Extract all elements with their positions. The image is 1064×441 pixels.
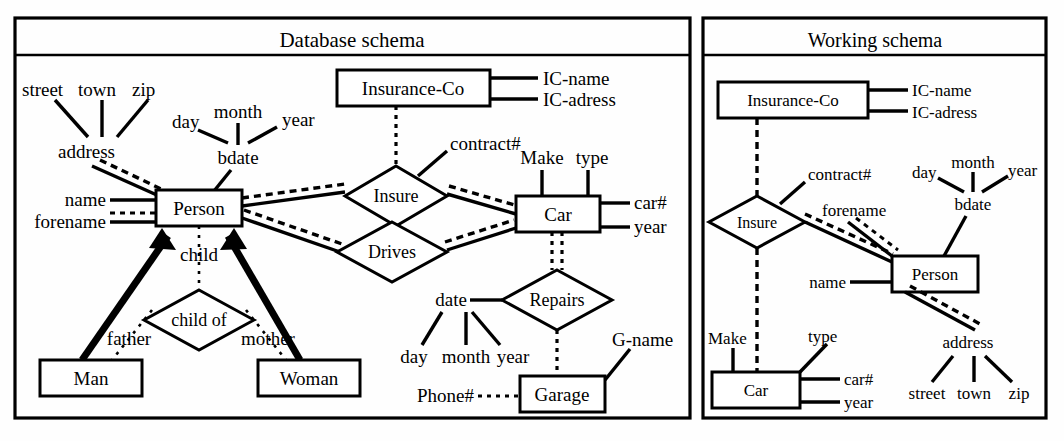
entity-label-garage: Garage	[535, 384, 590, 405]
relationship-drives-left: Drives	[242, 210, 516, 282]
attr-car-number: car#	[634, 192, 667, 213]
right-bdate-group: day month year bdate	[912, 153, 1038, 256]
attr-w-contract-number: contract#	[808, 165, 872, 184]
attr-w-address: address	[943, 333, 994, 352]
entity-insurance-co-right: Insurance-Co IC-name IC-adress	[718, 81, 977, 122]
edge-street-address	[55, 100, 88, 137]
attr-street: street	[22, 79, 64, 100]
entity-label-car: Car	[544, 204, 572, 225]
edge-zip-address	[117, 100, 148, 137]
entity-label-insurance-co: Insurance-Co	[362, 78, 464, 99]
attr-w-day: day	[912, 163, 937, 182]
entity-label-man: Man	[74, 368, 109, 389]
relationship-label-child-of: child of	[171, 310, 227, 330]
entity-car-left: Make type Car car# year	[516, 147, 667, 237]
attr-repairs-day: day	[400, 346, 428, 367]
diagram-canvas: Database schema street town zip address …	[0, 0, 1064, 441]
edge-w-day-bdate	[938, 178, 964, 192]
er-diagram-figure: Database schema street town zip address …	[0, 0, 1064, 441]
attr-type: type	[576, 147, 609, 168]
attr-w-street: street	[909, 384, 946, 403]
entity-label-w-car: Car	[744, 381, 769, 400]
relationship-label-drives: Drives	[368, 242, 416, 262]
entity-person-left: name forename Person	[34, 160, 242, 232]
attr-name: name	[65, 189, 106, 210]
entity-car-right: Make Car type car# year	[708, 327, 874, 412]
attr-w-town: town	[957, 384, 992, 403]
attr-w-ic-name: IC-name	[912, 81, 971, 100]
edge-person-insure-solid	[242, 192, 345, 206]
role-label-child: child	[180, 244, 218, 265]
attr-contract-number: contract#	[450, 133, 521, 154]
attr-repairs-month: month	[442, 346, 491, 367]
edge-person-drives-dashed	[244, 210, 342, 244]
edge-w-bdate-person	[944, 216, 966, 256]
relationship-label-w-insure: Insure	[737, 214, 777, 231]
edge-w-person-address-solid	[905, 292, 975, 330]
attr-repairs-date: date	[435, 289, 467, 310]
attr-w-ic-adress: IC-adress	[912, 103, 977, 122]
edge-bdate-person	[214, 170, 231, 191]
repairs-garage-left: Repairs date day month year Garage G-nam…	[400, 232, 673, 412]
left-bdate-group: day month year bdate	[172, 101, 315, 168]
attr-month: month	[214, 101, 263, 122]
edge-w-type-car	[800, 344, 827, 372]
child-of-hierarchy-left: child child of father mother Man Woman	[40, 226, 360, 396]
attr-w-type: type	[808, 327, 837, 346]
edge-year-bdate	[248, 127, 277, 143]
attr-year: year	[282, 109, 315, 130]
entity-insurance-co-left: Insurance-Co IC-name IC-adress	[337, 68, 616, 110]
attr-town: town	[78, 79, 117, 100]
attr-w-zip: zip	[1009, 384, 1030, 403]
edge-year-date	[472, 312, 500, 345]
edge-person-insure-dashed	[242, 184, 345, 198]
role-label-father: father	[107, 328, 152, 349]
isa-arrowhead-woman	[220, 228, 247, 250]
attr-w-year: year	[1008, 161, 1038, 180]
entity-label-woman: Woman	[280, 368, 339, 389]
edge-garage-gname	[605, 349, 630, 380]
attr-zip: zip	[132, 79, 155, 100]
attr-w-bdate: bdate	[955, 195, 992, 214]
edge-day-date	[422, 312, 442, 345]
attr-w-car-number: car#	[844, 370, 874, 389]
edge-w-year-bdate	[982, 176, 1008, 192]
attr-w-car-year: year	[844, 393, 874, 412]
entity-label-w-insurance-co: Insurance-Co	[747, 91, 839, 110]
attr-g-name: G-name	[612, 329, 673, 350]
edge-person-drives-solid	[242, 218, 340, 252]
attr-w-forename: forename	[822, 201, 886, 220]
attr-repairs-year: year	[497, 346, 530, 367]
attr-ic-adress: IC-adress	[543, 89, 616, 110]
edge-w-insure-contract	[780, 182, 805, 204]
attr-make: Make	[520, 147, 563, 168]
attr-w-make: Make	[708, 329, 747, 348]
attr-car-year: year	[634, 216, 667, 237]
edge-w-street-address	[932, 356, 953, 382]
left-address-group: street town zip address	[22, 79, 155, 162]
entity-label-w-person: Person	[912, 265, 959, 284]
attr-bdate: bdate	[217, 147, 258, 168]
left-panel-title: Database schema	[279, 28, 425, 52]
isa-arrowhead-man	[149, 228, 176, 250]
attr-ic-name: IC-name	[543, 68, 609, 89]
attr-w-name: name	[809, 273, 846, 292]
right-address-group: address street town zip	[905, 286, 1029, 403]
edge-w-insure-person-solid	[805, 222, 892, 262]
attr-address: address	[58, 141, 115, 162]
attr-phone-number: Phone#	[417, 385, 475, 406]
edge-w-zip-address	[985, 356, 1012, 382]
right-panel-title: Working schema	[808, 29, 943, 52]
edge-day-bdate	[198, 130, 228, 143]
attr-day: day	[172, 111, 200, 132]
relationship-label-repairs: Repairs	[530, 290, 585, 310]
attr-forename: forename	[34, 211, 106, 232]
entity-label-person: Person	[173, 198, 225, 219]
attr-w-month: month	[951, 153, 995, 172]
edge-insure-contract	[418, 151, 447, 176]
relationship-label-insure: Insure	[374, 186, 419, 206]
entity-person-right: forename Person name	[809, 201, 978, 292]
edge-insure-car-solid	[447, 194, 516, 214]
